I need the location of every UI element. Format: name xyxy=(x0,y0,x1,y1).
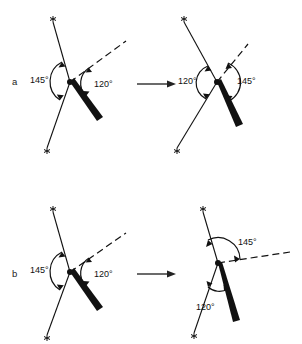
figure-background xyxy=(0,0,302,344)
central-atom-vertex xyxy=(215,260,221,266)
row-label-b: b xyxy=(12,268,17,279)
central-atom-vertex xyxy=(214,79,220,85)
angle-label-lower: 120° xyxy=(196,302,215,312)
angle-label-upper: 145° xyxy=(238,237,257,247)
angle-label-left: 145° xyxy=(30,265,49,275)
central-atom-vertex xyxy=(67,79,73,85)
angle-label-right: 120° xyxy=(94,79,113,89)
angle-label-left: 120° xyxy=(178,76,197,86)
angle-label-left: 145° xyxy=(30,75,49,85)
row-label-a: a xyxy=(12,76,18,87)
stereochemistry-figure: a xyxy=(0,0,302,344)
angle-label-right: 120° xyxy=(94,269,113,279)
central-atom-vertex xyxy=(67,269,73,275)
angle-label-right: 145° xyxy=(237,76,256,86)
